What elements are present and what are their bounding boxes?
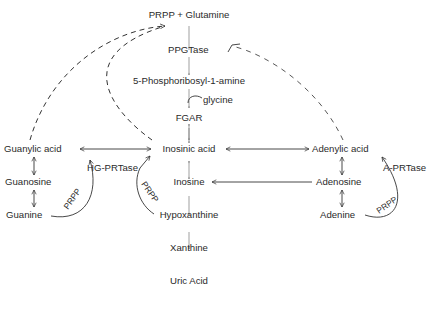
node-adenosine: Adenosine	[316, 176, 361, 187]
node-ppgtase: PPGTase	[168, 44, 209, 55]
node-uric-acid: Uric Acid	[170, 275, 208, 286]
node-guanosine: Guanosine	[5, 176, 51, 187]
node-xanthine: Xanthine	[170, 242, 208, 253]
cofactor-prpp-left: PRPP	[61, 186, 83, 211]
cofactor-prpp-right: PRPP	[374, 194, 399, 216]
node-glycine: glycine	[203, 94, 233, 105]
node-adenylic-acid: Adenylic acid	[312, 143, 369, 154]
node-a-prtase: A-PRTase	[383, 162, 426, 173]
node-adenine: Adenine	[320, 209, 355, 220]
node-hypoxanthine: Hypoxanthine	[160, 209, 219, 220]
node-hg-prtase: HG-PRTase	[87, 162, 138, 173]
node-inosinic-acid: Inosinic acid	[163, 143, 216, 154]
node-guanine: Guanine	[6, 209, 42, 220]
node-inosine: Inosine	[174, 176, 205, 187]
purine-metabolism-diagram: PRPP + Glutamine PPGTase 5-Phosphoribosy…	[0, 0, 441, 329]
node-phosphoribosylamine: 5-Phosphoribosyl-1-amine	[133, 75, 245, 86]
node-prpp-glutamine: PRPP + Glutamine	[149, 9, 230, 20]
cofactor-prpp-middle: PRPP	[139, 179, 161, 204]
node-guanylic-acid: Guanylic acid	[4, 143, 62, 154]
node-fgar: FGAR	[176, 112, 203, 123]
